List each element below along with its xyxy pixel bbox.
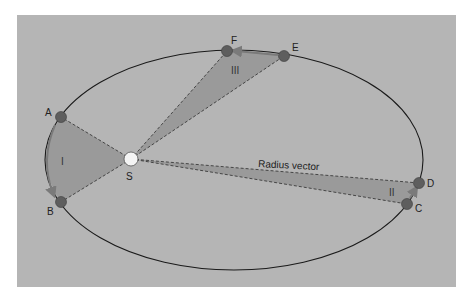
label-b: B (47, 206, 54, 217)
planet-e (279, 51, 290, 62)
sun (124, 152, 138, 166)
label-d: D (427, 178, 434, 189)
sector-label-iii: III (231, 65, 239, 76)
planet-a (56, 112, 67, 123)
label-c: C (415, 203, 422, 214)
planet-d (414, 178, 425, 189)
label-e: E (292, 42, 299, 53)
planet-b (56, 197, 67, 208)
label-s: S (126, 171, 133, 182)
sector-label-ii: II (389, 187, 395, 198)
planet-f (222, 46, 233, 57)
label-a: A (45, 107, 52, 118)
sector-label-i: I (61, 156, 64, 167)
planet-c (402, 199, 413, 210)
label-f: F (231, 35, 237, 46)
kepler-orbit-diagram: A B C D E F S I II III Radius vector (0, 0, 470, 297)
